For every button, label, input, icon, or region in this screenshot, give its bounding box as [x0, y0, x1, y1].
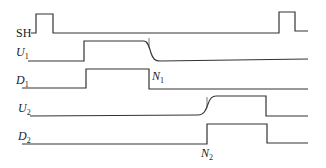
signal-d2: D2	[17, 124, 308, 145]
waveform-u2	[30, 96, 308, 116]
label-n2: N2	[200, 146, 213, 162]
waveform-sh	[31, 12, 308, 33]
waveform-d2	[22, 124, 308, 144]
signal-u1: U1	[16, 41, 308, 61]
timing-diagram: SH U1 D1 N1 U2 D2 N2	[0, 0, 326, 168]
signal-sh: SH	[16, 12, 308, 40]
label-sh: SH	[16, 26, 32, 40]
label-d1: D1	[15, 73, 29, 89]
label-u1: U1	[16, 45, 29, 61]
label-n1: N1	[151, 69, 164, 85]
signal-u2: U2	[18, 96, 308, 117]
label-d2: D2	[17, 129, 31, 145]
waveform-u1	[28, 41, 308, 61]
label-u2: U2	[18, 101, 31, 117]
waveform-d1	[22, 69, 308, 89]
